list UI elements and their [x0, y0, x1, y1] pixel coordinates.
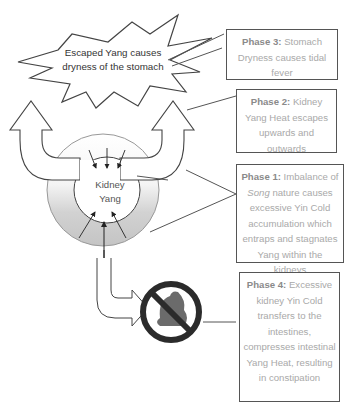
phase1-text-after: nature causes excessive Yin Cold accumul…: [243, 187, 338, 276]
phase4-box: Phase 4: Excessive kidney Yin Cold trans…: [239, 272, 340, 402]
kidney-yang-label: Kidney Yang: [80, 178, 140, 206]
connector-phase2: [187, 96, 236, 110]
phase4-text: Excessive kidney Yin Cold transfers to t…: [243, 279, 335, 383]
right-upward-arrow: [120, 101, 194, 180]
phase1-label: Phase 1:: [241, 171, 280, 182]
connector-phase1: [186, 170, 236, 194]
phase1-emphasis: Song: [247, 187, 269, 198]
burst-line-1: Escaped Yang causes: [60, 46, 166, 60]
phase2-box: Phase 2: Kidney Yang Heat escapes upward…: [236, 89, 337, 153]
phase3-label: Phase 3:: [242, 36, 281, 47]
burst-line-2: dryness of the stomach: [60, 60, 166, 74]
phase2-label: Phase 2:: [251, 96, 290, 107]
prohibited-stool-icon: [143, 284, 199, 340]
phase1-text-before: Imbalance of: [284, 171, 339, 182]
yang-label: Yang: [80, 192, 140, 206]
phase1-box: Phase 1: Imbalance of Song nature causes…: [236, 164, 344, 263]
kidney-label: Kidney: [80, 178, 140, 192]
burst-label: Escaped Yang causes dryness of the stoma…: [60, 46, 166, 74]
phase4-label: Phase 4:: [247, 279, 286, 290]
left-upward-arrow: [10, 101, 80, 180]
phase3-box: Phase 3: Stomach Dryness causes tidal fe…: [226, 29, 338, 80]
